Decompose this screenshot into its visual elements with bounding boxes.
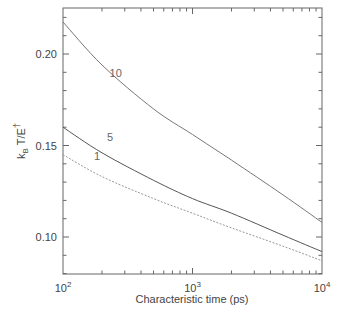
curve-10: [63, 22, 322, 222]
curve-1: [63, 155, 322, 261]
svg-text:kB T/E†: kB T/E†: [12, 123, 30, 159]
x-tick-label: 104: [314, 280, 331, 294]
x-tick-label: 103: [184, 280, 201, 294]
tick-labels: 0.100.150.20102103104: [36, 48, 331, 294]
curve-5: [63, 127, 322, 251]
y-tick-label: 0.10: [36, 231, 57, 243]
x-axis-title: Characteristic time (ps): [135, 293, 248, 305]
line-chart: 1051 0.100.150.20102103104 Characteristi…: [0, 0, 345, 326]
curve-label-1: 1: [94, 150, 100, 162]
y-tick-label: 0.15: [36, 140, 57, 152]
curves: 1051: [63, 22, 322, 261]
curve-label-5: 5: [107, 131, 113, 143]
y-tick-label: 0.20: [36, 48, 57, 60]
plot-frame: [63, 8, 322, 274]
x-tick-label: 102: [55, 280, 72, 294]
axis-ticks: [63, 8, 322, 274]
y-axis-title: kB T/E†: [12, 123, 30, 159]
curve-label-10: 10: [110, 67, 122, 79]
